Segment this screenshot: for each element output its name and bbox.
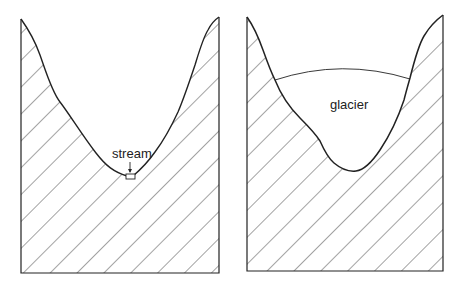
glacier-surface-line [275,69,410,80]
stream-label: stream [112,146,152,161]
arrowhead-icon [128,169,132,173]
stream-channel-icon [126,174,135,179]
glacier-label: glacier [330,97,369,112]
valley-comparison-diagram: stream glacier [0,0,461,285]
